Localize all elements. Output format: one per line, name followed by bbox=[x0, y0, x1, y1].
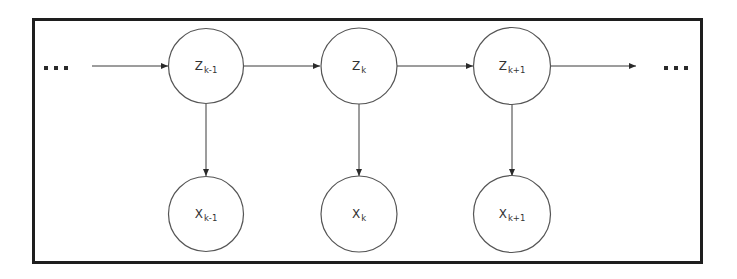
ellipsis-dot bbox=[44, 66, 48, 70]
label-subscript: k-1 bbox=[204, 65, 217, 75]
label-x-k-plus-1: Xk+1 bbox=[499, 208, 526, 220]
label-base: X bbox=[352, 207, 360, 221]
label-subscript: k bbox=[361, 65, 366, 75]
ellipsis-dot bbox=[664, 66, 668, 70]
label-base: X bbox=[499, 207, 507, 221]
ellipsis-left bbox=[44, 66, 68, 70]
label-z-k-plus-1: Zk+1 bbox=[499, 60, 526, 72]
label-base: Z bbox=[195, 59, 203, 73]
ellipsis-dot bbox=[54, 66, 58, 70]
label-x-k-minus-1: Xk-1 bbox=[195, 208, 218, 220]
label-subscript: k+1 bbox=[508, 65, 525, 75]
label-subscript: k+1 bbox=[508, 213, 525, 223]
ellipsis-dot bbox=[684, 66, 688, 70]
label-z-k: Zk bbox=[352, 60, 366, 72]
label-z-k-minus-1: Zk-1 bbox=[195, 60, 218, 72]
label-base: X bbox=[195, 207, 203, 221]
hmm-diagram bbox=[0, 0, 737, 279]
label-base: Z bbox=[499, 59, 507, 73]
label-x-k: Xk bbox=[352, 208, 366, 220]
label-subscript: k bbox=[361, 213, 366, 223]
ellipsis-dot bbox=[64, 66, 68, 70]
ellipsis-right bbox=[664, 66, 688, 70]
ellipsis-dot bbox=[674, 66, 678, 70]
label-base: Z bbox=[352, 59, 360, 73]
label-subscript: k-1 bbox=[204, 213, 217, 223]
